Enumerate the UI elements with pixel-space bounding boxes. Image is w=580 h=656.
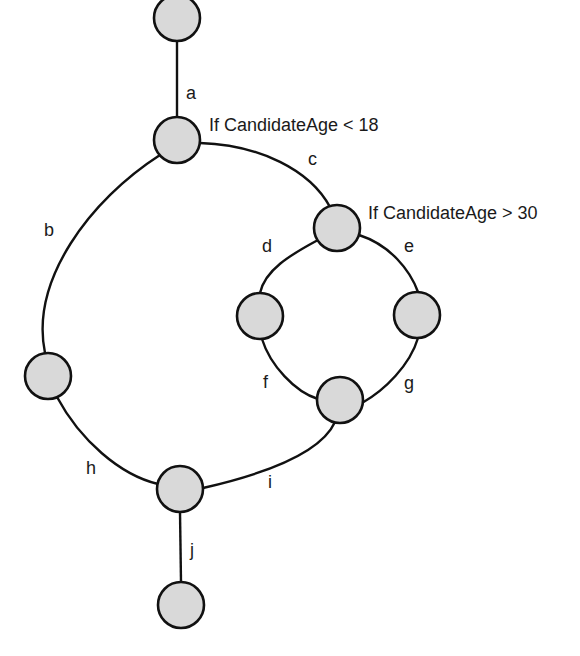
edge-label-a: a	[186, 83, 197, 103]
edge-j	[180, 512, 181, 582]
node-decision-age-under-18	[154, 117, 200, 163]
edge-label-h: h	[86, 458, 96, 478]
node-decision-age-over-30	[314, 205, 360, 251]
condition-label-age-under-18: If CandidateAge < 18	[209, 115, 379, 135]
node-inner-join	[317, 377, 363, 423]
edge-label-e: e	[404, 236, 414, 256]
edge-h	[57, 397, 158, 484]
edge-label-j: j	[189, 540, 194, 560]
node-outer-left	[25, 353, 71, 399]
condition-label-age-over-30: If CandidateAge > 30	[368, 203, 538, 223]
condition-labels: If CandidateAge < 18 If CandidateAge > 3…	[209, 115, 538, 223]
edge-label-c: c	[308, 149, 317, 169]
node-join	[157, 466, 203, 512]
edge-g	[362, 338, 418, 403]
edge-label-d: d	[262, 236, 272, 256]
control-flow-diagram: a b c d e f g h i j If CandidateAge < 18…	[0, 0, 580, 656]
nodes	[25, 0, 440, 628]
edge-label-i: i	[268, 472, 272, 492]
node-start	[154, 0, 200, 41]
edge-labels: a b c d e f g h i j	[44, 83, 414, 560]
node-inner-right	[394, 292, 440, 338]
edge-f	[262, 339, 318, 399]
node-end	[158, 582, 204, 628]
edge-label-b: b	[44, 220, 54, 240]
edge-b	[43, 155, 160, 353]
node-inner-left	[237, 293, 283, 339]
edge-label-g: g	[404, 373, 414, 393]
edge-label-f: f	[263, 372, 269, 392]
